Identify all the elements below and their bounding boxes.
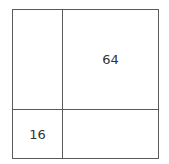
cell-bottom-left: 16 xyxy=(13,110,62,158)
cell-bottom-right xyxy=(63,110,158,158)
cell-top-right: 64 xyxy=(63,10,158,109)
cell-top-left xyxy=(13,10,62,109)
